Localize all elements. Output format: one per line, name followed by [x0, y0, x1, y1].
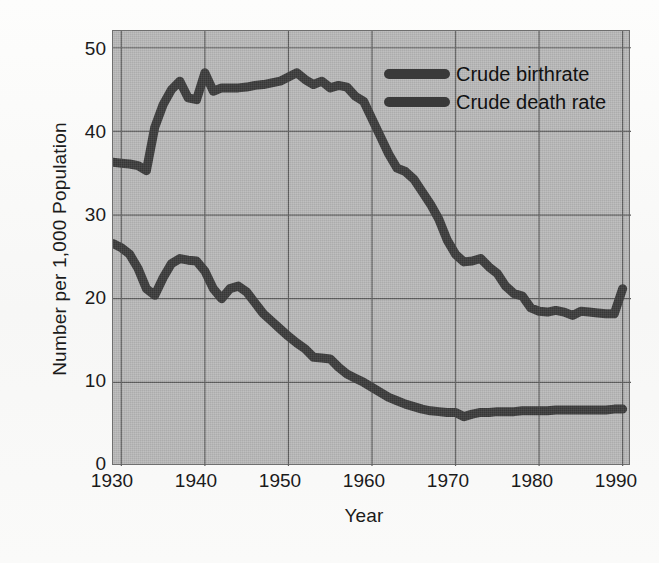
x-tick-1980: 1980	[497, 470, 567, 492]
x-tick-1950: 1950	[245, 470, 315, 492]
legend: Crude birthrate Crude death rate	[384, 60, 614, 116]
x-tick-1930: 1930	[77, 470, 147, 492]
x-tick-1940: 1940	[161, 470, 231, 492]
chart-page: Number per 1,000 Population Year 50 40 3…	[0, 0, 659, 563]
legend-item-crude-death-rate: Crude death rate	[384, 88, 614, 116]
legend-label-crude-death-rate: Crude death rate	[456, 92, 606, 112]
series-line-crude-death-rate	[113, 243, 623, 416]
x-tick-1970: 1970	[413, 470, 483, 492]
x-tick-1990: 1990	[581, 470, 651, 492]
legend-swatch-crude-death-rate	[384, 97, 450, 107]
legend-item-crude-birthrate: Crude birthrate	[384, 60, 614, 88]
line-chart-figure: Number per 1,000 Population Year 50 40 3…	[0, 0, 659, 563]
legend-swatch-crude-birthrate	[384, 69, 450, 79]
legend-label-crude-birthrate: Crude birthrate	[456, 64, 589, 84]
x-tick-1960: 1960	[329, 470, 399, 492]
series-lines	[113, 73, 623, 417]
